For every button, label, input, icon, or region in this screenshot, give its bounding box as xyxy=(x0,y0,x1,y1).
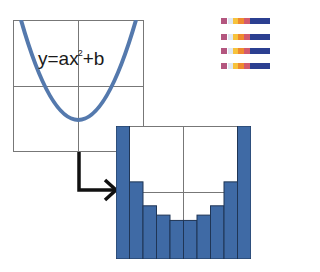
histogram-bar xyxy=(130,182,144,259)
histogram-panel xyxy=(116,126,251,259)
legend-swatch xyxy=(221,48,227,54)
legend-swatch xyxy=(250,34,270,40)
legend-swatch xyxy=(221,63,227,69)
histogram-bar xyxy=(143,206,157,259)
legend-strip-row xyxy=(221,34,270,40)
legend-swatch xyxy=(221,34,227,40)
arrow-icon xyxy=(70,150,122,202)
histogram-bar xyxy=(116,126,130,259)
color-legend-strip xyxy=(221,18,270,74)
legend-swatch xyxy=(250,63,270,69)
legend-swatch xyxy=(250,48,270,54)
histogram-bar xyxy=(170,220,184,259)
legend-strip-row xyxy=(221,48,270,54)
legend-swatch xyxy=(250,18,270,24)
legend-strip-row xyxy=(221,63,270,69)
histogram-bar xyxy=(224,182,238,259)
legend-swatch xyxy=(221,18,227,24)
histogram-bar xyxy=(184,220,198,259)
equation-suffix: +b xyxy=(83,48,105,69)
histogram-bar xyxy=(211,206,225,259)
equation-label: y=ax2+b xyxy=(38,48,104,70)
histogram-chart xyxy=(116,126,251,259)
histogram-bar xyxy=(157,215,171,259)
histogram-bar xyxy=(197,215,211,259)
equation-base: y=ax xyxy=(38,48,79,69)
legend-strip-row xyxy=(221,18,270,24)
histogram-bar xyxy=(238,126,252,259)
